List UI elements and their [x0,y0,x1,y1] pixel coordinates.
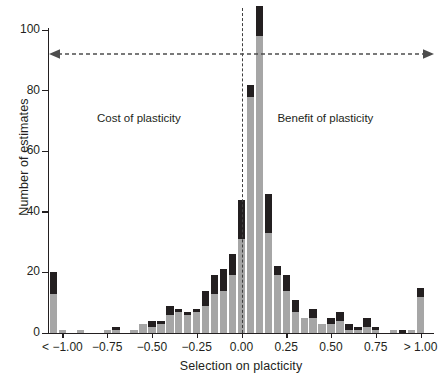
histogram-bar [211,275,218,333]
annotation-cost-of-plasticity: Cost of plasticity [97,112,181,124]
histogram-bar [363,318,370,333]
plot-area: Cost of plasticity Benefit of plasticity [49,8,434,333]
histogram-bar [327,318,334,333]
bar-segment-black [112,327,119,330]
bar-segment-black [166,306,173,315]
bar-segment-black [327,318,334,324]
x-tick-mark [197,333,198,338]
bar-segment-gray [283,291,290,333]
histogram-bar [265,194,272,333]
bar-segment-gray [193,312,200,333]
y-tick-mark [42,272,48,273]
y-tick-label: 100 [6,23,40,35]
bar-segment-black [309,309,316,318]
bar-segment-gray [265,233,272,333]
y-tick-label: 60 [6,144,40,156]
bar-segment-gray [336,321,343,333]
histogram-bar [229,254,236,333]
bar-segment-black [184,312,191,315]
bar-segment-gray [139,324,146,333]
y-tick-mark [42,151,48,152]
bar-segment-black [229,254,236,275]
bar-segment-black [193,309,200,312]
histogram-bar [50,272,57,333]
bar-segment-black [256,6,263,36]
histogram-bar [345,324,352,333]
bar-segment-black [336,312,343,321]
bar-segment-black [148,321,155,327]
bar-segment-black [265,194,272,233]
bar-segment-gray [157,324,164,333]
bar-segment-black [363,318,370,327]
histogram-bar [256,6,263,333]
histogram-bar [274,266,281,333]
x-tick-mark [331,333,332,338]
bar-segment-gray [292,312,299,333]
x-tick-mark [242,333,243,338]
bar-segment-gray [309,318,316,333]
x-tick-label: > 1.00 [386,340,443,354]
x-tick-mark [152,333,153,338]
histogram-bar [166,306,173,333]
histogram-bar [202,291,209,333]
histogram-bar [318,324,325,333]
bar-segment-black [220,269,227,290]
y-tick-label: 40 [6,205,40,217]
histogram-bar [417,288,424,333]
bar-segment-black [274,266,281,275]
histogram-bar [247,85,254,333]
histogram-bar [184,312,191,333]
histogram-bar [301,318,308,333]
bar-segment-black [211,275,218,293]
bar-segment-black [50,272,57,293]
annotation-benefit-of-plasticity: Benefit of plasticity [277,112,373,124]
histogram-bar [193,309,200,333]
bar-segment-gray [301,318,308,333]
y-tick-label: 0 [6,326,40,338]
bar-segment-gray [220,291,227,333]
y-tick-label: 80 [6,84,40,96]
bar-segment-gray [247,97,254,333]
bar-segment-gray [274,275,281,333]
bar-segment-black [292,300,299,312]
y-tick-mark [42,30,48,31]
histogram-bar [283,275,290,333]
x-tick-mark [421,333,422,338]
bar-segment-black [175,309,182,312]
bar-segment-gray [327,324,334,333]
x-axis-title: Selection on placticity [48,359,434,373]
bar-segment-black [202,291,209,306]
x-tick-mark [376,333,377,338]
histogram-bar [157,321,164,333]
zero-reference-line [242,8,243,333]
bar-segment-black [354,327,361,330]
x-tick-mark [286,333,287,338]
bar-segment-gray [318,324,325,333]
histogram-bar [139,324,146,333]
bar-segment-gray [202,306,209,333]
bar-segment-black [417,288,424,297]
histogram-bar [292,300,299,333]
bar-segment-black [157,321,164,324]
bar-segment-gray [417,297,424,333]
bar-segment-black [283,275,290,290]
bar-segment-gray [184,315,191,333]
histogram-bar [309,309,316,333]
x-tick-mark [107,333,108,338]
y-tick-mark [42,90,48,91]
y-tick-mark [42,211,48,212]
histogram-bar [175,309,182,333]
bar-segment-gray [211,294,218,333]
bar-segment-black [247,85,254,97]
bar-segment-black [345,324,352,330]
bar-segment-black [372,327,379,330]
histogram-bar [336,312,343,333]
histogram-bar [220,269,227,333]
bar-segment-gray [50,294,57,333]
bar-segment-gray [256,36,263,333]
histogram-bar [148,321,155,333]
x-tick-mark [62,333,63,338]
y-axis-title: Number of estimates [17,47,31,267]
bar-segment-gray [166,315,173,333]
histogram-figure: Number of estimates 020406080100 Cost of… [0,0,443,381]
